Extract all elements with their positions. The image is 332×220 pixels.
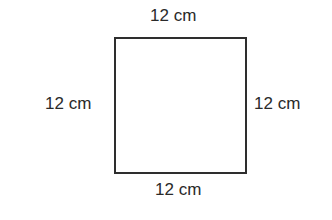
top-side-label: 12 cm	[150, 6, 196, 26]
left-side-label: 12 cm	[45, 94, 91, 114]
bottom-side-label: 12 cm	[155, 180, 201, 200]
square-shape	[114, 37, 247, 174]
right-side-label: 12 cm	[254, 94, 300, 114]
